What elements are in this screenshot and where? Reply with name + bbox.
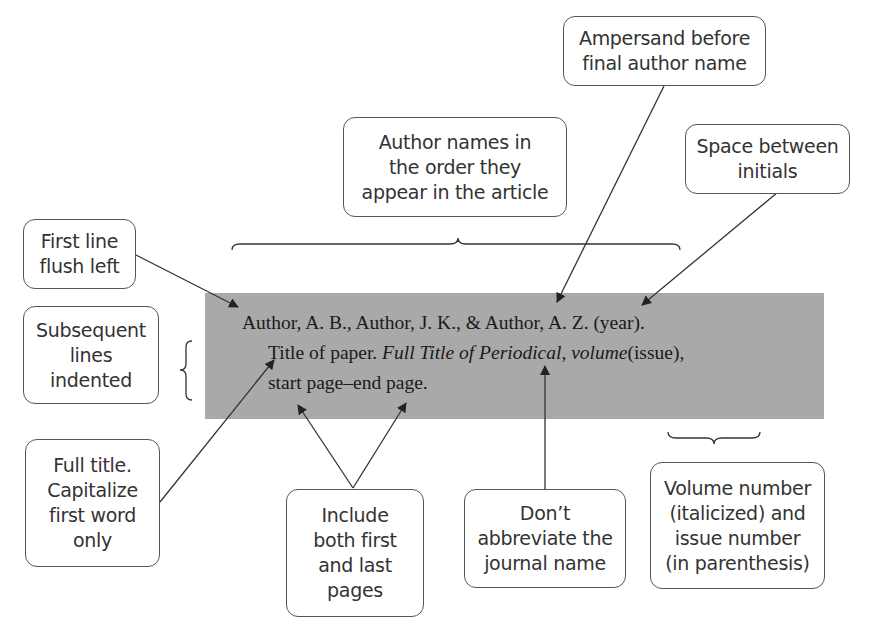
callout-full-title: Full title. Capitalize first word only xyxy=(25,439,160,567)
callout-pages: Include both first and last pages xyxy=(286,489,424,617)
callout-author-order: Author names in the order they appear in… xyxy=(343,117,567,217)
indent-brace-icon xyxy=(180,341,192,400)
callout-space-initials: Space between initials xyxy=(685,124,850,194)
volume-brace-icon xyxy=(668,432,760,444)
apa-reference-diagram: Author, A. B., Author, J. K., & Author, … xyxy=(0,0,894,630)
author-brace-icon xyxy=(232,238,680,250)
callout-journal-name: Don’t abbreviate the journal name xyxy=(464,489,626,588)
callout-ampersand: Ampersand before final author name xyxy=(563,16,766,86)
callout-volume-issue: Volume number (italicized) and issue num… xyxy=(650,462,825,589)
callout-subsequent-lines: Subsequent lines indented xyxy=(23,306,159,404)
callout-first-line: First line flush left xyxy=(23,219,136,289)
